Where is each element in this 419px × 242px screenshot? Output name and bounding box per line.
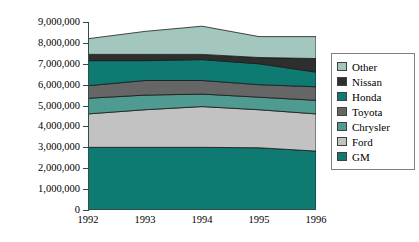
y-axis-tick-label: 5,000,000 bbox=[0, 101, 80, 111]
y-axis-tick-label: 9,000,000 bbox=[0, 17, 80, 27]
x-axis-tick-label: 1995 bbox=[234, 214, 284, 226]
legend-swatch-icon bbox=[337, 92, 347, 101]
y-axis-tick-label: 1,000,000 bbox=[0, 184, 80, 194]
y-axis-tick-label: 7,000,000 bbox=[0, 59, 80, 69]
legend-swatch-icon bbox=[337, 77, 347, 86]
x-axis-tick-label: 1992 bbox=[63, 214, 113, 226]
legend-item-toyota[interactable]: Toyota bbox=[337, 104, 410, 119]
y-axis-tick-label: 3,000,000 bbox=[0, 142, 80, 152]
legend-item-label: Honda bbox=[352, 91, 381, 103]
legend-item-label: GM bbox=[352, 151, 370, 163]
legend-item-ford[interactable]: Ford bbox=[337, 134, 410, 149]
y-axis-tick-label: 4,000,000 bbox=[0, 121, 80, 131]
x-axis-tick-label: 1996 bbox=[291, 214, 341, 226]
plot-frame bbox=[88, 22, 316, 210]
legend-item-label: Ford bbox=[352, 136, 373, 148]
plot-area bbox=[88, 22, 316, 210]
legend-item-label: Other bbox=[352, 61, 377, 73]
x-axis-tick-label: 1994 bbox=[177, 214, 227, 226]
legend-item-label: Chrysler bbox=[352, 121, 390, 133]
y-axis-tick-label: 6,000,000 bbox=[0, 80, 80, 90]
legend-item-nissan[interactable]: Nissan bbox=[337, 74, 410, 89]
legend-item-chrysler[interactable]: Chrysler bbox=[337, 119, 410, 134]
y-axis-tick-labels: 9,000,0008,000,0007,000,0006,000,0005,00… bbox=[0, 22, 80, 210]
legend-item-other[interactable]: Other bbox=[337, 59, 410, 74]
chart-container: 9,000,0008,000,0007,000,0006,000,0005,00… bbox=[0, 0, 419, 242]
y-axis-tick-label: 8,000,000 bbox=[0, 38, 80, 48]
legend-item-label: Toyota bbox=[352, 106, 382, 118]
y-axis-tick-label: 2,000,000 bbox=[0, 163, 80, 173]
legend-swatch-icon bbox=[337, 152, 347, 161]
x-axis-tick-labels: 19921993199419951996 bbox=[88, 214, 316, 230]
legend-swatch-icon bbox=[337, 137, 347, 146]
x-axis-tick-label: 1993 bbox=[120, 214, 170, 226]
legend-item-honda[interactable]: Honda bbox=[337, 89, 410, 104]
legend-swatch-icon bbox=[337, 62, 347, 71]
legend-swatch-icon bbox=[337, 122, 347, 131]
chart-legend: OtherNissanHondaToyotaChryslerFordGM bbox=[331, 53, 415, 170]
legend-item-label: Nissan bbox=[352, 76, 382, 88]
legend-swatch-icon bbox=[337, 107, 347, 116]
legend-item-gm[interactable]: GM bbox=[337, 149, 410, 164]
